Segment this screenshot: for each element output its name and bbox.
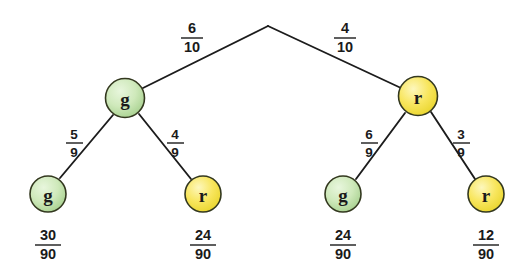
branch-prob-green-r-numerator: 4 (171, 127, 179, 142)
outcome-prob-r-r: 12 90 (473, 227, 499, 262)
branch-prob-root-yellow: 4 10 (334, 20, 356, 55)
branch-prob-yellow-r-denominator: 9 (457, 145, 465, 160)
branch-prob-yellow-g: 6 9 (361, 127, 378, 160)
node-yellow-r-label: r (414, 87, 423, 108)
outcome-prob-r-g-denominator: 90 (335, 246, 351, 262)
tree-canvas: g r g r g r 6 10 4 (0, 0, 524, 278)
leaf-g-g-label: g (43, 185, 53, 206)
branch-prob-green-r-denominator: 9 (171, 145, 179, 160)
outcome-prob-r-r-numerator: 12 (478, 227, 494, 243)
leaf-r-g[interactable]: g (325, 176, 361, 212)
branch-prob-root-green-denominator: 10 (184, 39, 200, 55)
branch-prob-green-g-numerator: 5 (70, 127, 78, 142)
probability-tree-diagram: g r g r g r 6 10 4 (0, 0, 524, 278)
leaf-r-r-label: r (482, 185, 491, 206)
leaf-g-g[interactable]: g (30, 176, 66, 212)
branch-prob-yellow-r-numerator: 3 (457, 127, 465, 142)
branch-yellow-to-leaf-r (431, 112, 475, 179)
leaf-r-r[interactable]: r (468, 176, 504, 212)
branch-green-to-leaf-r (139, 114, 191, 179)
branch-prob-root-yellow-denominator: 10 (337, 39, 353, 55)
node-yellow-r[interactable]: r (399, 77, 438, 116)
leaf-r-g-label: g (338, 185, 348, 206)
leaf-g-r-label: r (199, 185, 208, 206)
outcome-prob-g-r-numerator: 24 (195, 227, 211, 243)
branch-prob-root-green: 6 10 (181, 20, 203, 55)
branch-prob-green-r: 4 9 (167, 127, 184, 160)
outcome-prob-r-r-denominator: 90 (478, 246, 494, 262)
branch-prob-yellow-g-denominator: 9 (365, 145, 373, 160)
outcome-prob-g-g: 30 90 (35, 227, 61, 262)
branch-prob-green-g-denominator: 9 (70, 145, 78, 160)
outcome-prob-g-r-denominator: 90 (195, 246, 211, 262)
branch-yellow-to-leaf-g (356, 113, 405, 179)
leaf-g-r[interactable]: r (185, 176, 221, 212)
branch-root-to-yellow (268, 26, 401, 88)
branch-prob-yellow-g-numerator: 6 (365, 127, 373, 142)
outcome-prob-g-g-numerator: 30 (40, 227, 56, 243)
branch-prob-yellow-r: 3 9 (453, 127, 470, 160)
node-green-g[interactable]: g (106, 79, 145, 118)
outcome-prob-g-g-denominator: 90 (40, 246, 56, 262)
branch-root-to-green (143, 26, 268, 88)
branch-prob-root-yellow-numerator: 4 (341, 20, 349, 36)
branch-prob-root-green-numerator: 6 (188, 20, 196, 36)
outcome-prob-g-r: 24 90 (190, 227, 216, 262)
outcome-prob-r-g: 24 90 (330, 227, 356, 262)
outcome-prob-r-g-numerator: 24 (335, 227, 351, 243)
node-green-g-label: g (120, 89, 130, 110)
branch-green-to-leaf-g (60, 115, 113, 178)
